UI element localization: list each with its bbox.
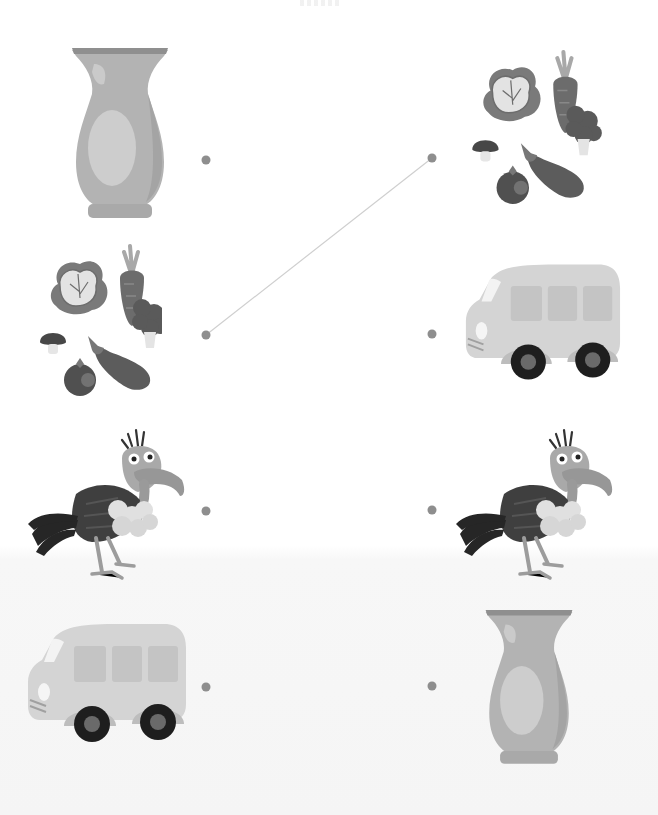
van-icon — [462, 260, 622, 384]
right-dot-vase[interactable] — [428, 682, 437, 691]
right-item-vase[interactable]: Vase — [482, 598, 576, 774]
left-dot-vase[interactable] — [202, 156, 211, 165]
left-item-vegetables[interactable]: Vegetables — [36, 244, 162, 402]
vulture-icon — [454, 424, 616, 584]
left-item-vase[interactable]: Vase — [68, 44, 172, 220]
left-item-van[interactable]: Van — [24, 620, 188, 746]
vase-icon — [68, 44, 172, 220]
van-icon — [24, 620, 188, 746]
left-dot-vegetables[interactable] — [202, 331, 211, 340]
left-dot-van[interactable] — [202, 683, 211, 692]
right-item-vulture[interactable]: Vulture — [454, 424, 616, 584]
right-dot-van[interactable] — [428, 330, 437, 339]
vase-icon — [482, 598, 576, 774]
vegetables-icon — [456, 50, 608, 210]
right-item-vegetables[interactable]: Vegetables — [456, 50, 608, 210]
right-item-van[interactable]: Van — [462, 260, 622, 384]
right-dot-vegetables[interactable] — [428, 154, 437, 163]
left-dot-vulture[interactable] — [202, 507, 211, 516]
header-decoration — [300, 0, 340, 6]
left-item-vulture[interactable]: Vulture — [26, 424, 188, 584]
connection-line-vegetables[interactable] — [206, 158, 432, 335]
vulture-icon — [26, 424, 188, 584]
right-dot-vulture[interactable] — [428, 506, 437, 515]
vegetables-icon — [36, 244, 162, 402]
